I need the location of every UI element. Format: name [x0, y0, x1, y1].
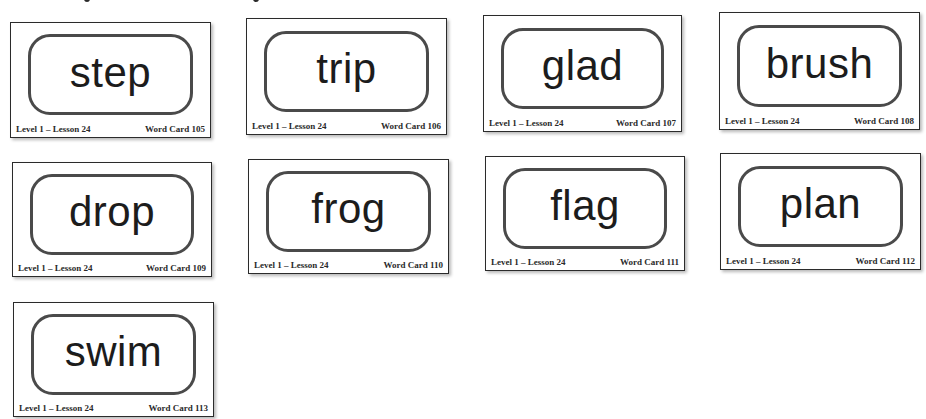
word-card-108: brush Level 1 – Lesson 24 Word Card 108: [719, 12, 920, 130]
word-card-112: plan Level 1 – Lesson 24 Word Card 112: [720, 153, 921, 270]
card-footer: Level 1 – Lesson 24 Word Card 105: [16, 124, 205, 135]
word-frame: step: [28, 34, 193, 115]
text-fragment: [84, 0, 90, 2]
word-card-107: glad Level 1 – Lesson 24 Word Card 107: [483, 15, 682, 132]
word-frame: trip: [264, 31, 429, 113]
card-word: frog: [311, 188, 385, 230]
card-footer: Level 1 – Lesson 24 Word Card 110: [254, 260, 443, 271]
card-word: flag: [550, 185, 620, 227]
card-number-label: Word Card 110: [383, 260, 443, 271]
card-number-label: Word Card 106: [381, 121, 441, 132]
level-lesson-label: Level 1 – Lesson 24: [489, 118, 564, 129]
card-footer: Level 1 – Lesson 24 Word Card 109: [18, 263, 206, 274]
word-frame: flag: [503, 168, 667, 248]
card-number-label: Word Card 107: [616, 118, 676, 129]
level-lesson-label: Level 1 – Lesson 24: [16, 124, 91, 135]
card-word: plan: [780, 183, 861, 225]
card-word: step: [70, 52, 151, 94]
word-frame: drop: [30, 174, 194, 254]
word-frame: swim: [31, 314, 196, 394]
level-lesson-label: Level 1 – Lesson 24: [19, 403, 94, 414]
level-lesson-label: Level 1 – Lesson 24: [252, 121, 327, 132]
word-frame: frog: [266, 171, 431, 251]
card-number-label: Word Card 105: [145, 124, 205, 135]
word-card-105: step Level 1 – Lesson 24 Word Card 105: [10, 22, 211, 138]
card-footer: Level 1 – Lesson 24 Word Card 108: [725, 116, 914, 127]
card-footer: Level 1 – Lesson 24 Word Card 111: [491, 257, 679, 268]
level-lesson-label: Level 1 – Lesson 24: [726, 256, 801, 267]
level-lesson-label: Level 1 – Lesson 24: [725, 116, 800, 127]
text-fragment: [253, 0, 259, 2]
level-lesson-label: Level 1 – Lesson 24: [491, 257, 566, 268]
word-card-113: swim Level 1 – Lesson 24 Word Card 113: [13, 302, 214, 417]
card-footer: Level 1 – Lesson 24 Word Card 106: [252, 121, 441, 132]
card-number-label: Word Card 108: [854, 116, 914, 127]
word-frame: brush: [737, 25, 902, 107]
card-word: trip: [316, 48, 376, 90]
card-word: drop: [69, 191, 155, 233]
word-card-109: drop Level 1 – Lesson 24 Word Card 109: [12, 162, 212, 277]
card-footer: Level 1 – Lesson 24 Word Card 107: [489, 118, 676, 129]
card-word: swim: [65, 331, 163, 373]
cropped-heading-fragment: [0, 0, 926, 2]
word-card-111: flag Level 1 – Lesson 24 Word Card 111: [485, 156, 685, 271]
word-card-110: frog Level 1 – Lesson 24 Word Card 110: [248, 159, 449, 274]
word-card-106: trip Level 1 – Lesson 24 Word Card 106: [246, 18, 447, 135]
card-word: glad: [542, 45, 623, 87]
card-number-label: Word Card 109: [146, 263, 206, 274]
level-lesson-label: Level 1 – Lesson 24: [18, 263, 93, 274]
word-frame: glad: [501, 28, 665, 110]
card-number-label: Word Card 113: [148, 403, 208, 414]
card-word: brush: [766, 43, 874, 85]
card-number-label: Word Card 112: [855, 256, 915, 267]
card-footer: Level 1 – Lesson 24 Word Card 113: [19, 403, 208, 414]
card-footer: Level 1 – Lesson 24 Word Card 112: [726, 256, 915, 267]
word-frame: plan: [738, 166, 903, 248]
card-number-label: Word Card 111: [620, 257, 679, 268]
level-lesson-label: Level 1 – Lesson 24: [254, 260, 329, 271]
